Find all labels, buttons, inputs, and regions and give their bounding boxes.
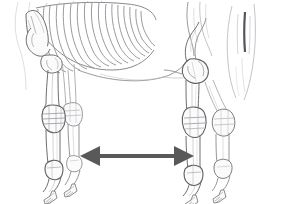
hindleg-far-hock xyxy=(212,109,235,136)
foreleg-far-knee xyxy=(64,103,83,126)
foreleg-far-fetlock xyxy=(67,156,82,172)
hock xyxy=(182,107,206,138)
fore-fetlock xyxy=(45,160,63,179)
hindleg-far-fetlock xyxy=(214,159,232,178)
carpus xyxy=(42,105,65,133)
arrow-shaft xyxy=(99,154,175,158)
hind-fetlock xyxy=(184,165,203,185)
horse-skeleton-figure: Pencil-style anatomical drawing of a hor… xyxy=(0,0,284,204)
skeleton-drawing xyxy=(0,0,284,204)
